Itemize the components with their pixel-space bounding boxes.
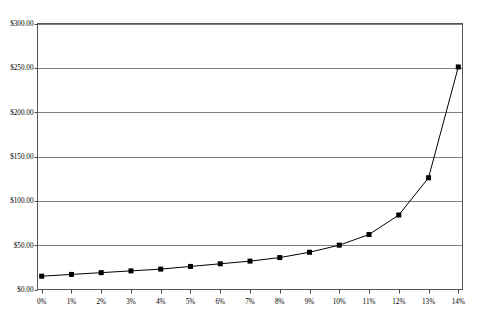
- x-axis-tick-label: 5%: [186, 298, 196, 306]
- data-point-marker: [426, 175, 431, 180]
- y-axis-tick-label: $200.00: [10, 109, 34, 117]
- data-point-marker: [188, 264, 193, 269]
- x-axis-tick-label: 8%: [275, 298, 285, 306]
- data-point-marker: [99, 270, 104, 275]
- x-axis-tick-label: 6%: [215, 298, 225, 306]
- data-point-marker: [218, 261, 223, 266]
- x-axis-tick-label: 9%: [305, 298, 315, 306]
- data-point-marker: [456, 64, 461, 69]
- line-chart: $0.00$50.00$100.00$150.00$200.00$250.00$…: [0, 0, 488, 319]
- x-axis-tick-label: 13%: [422, 298, 435, 306]
- y-axis-tick-label: $100.00: [10, 197, 34, 205]
- y-axis-tick-label: $250.00: [10, 64, 34, 72]
- x-axis-tick-label: 3%: [126, 298, 136, 306]
- x-axis-tick-label: 7%: [245, 298, 255, 306]
- x-axis-tick-label: 12%: [392, 298, 405, 306]
- x-axis-tick-label: 0%: [37, 298, 47, 306]
- chart-container: $0.00$50.00$100.00$150.00$200.00$250.00$…: [0, 0, 488, 319]
- data-point-marker: [367, 232, 372, 237]
- data-point-marker: [158, 267, 163, 272]
- x-axis-tick-label: 11%: [363, 298, 376, 306]
- x-axis-tick-label: 10%: [333, 298, 346, 306]
- data-point-marker: [396, 213, 401, 218]
- x-axis-tick-labels: 0%1%2%3%4%5%6%7%8%9%10%11%12%13%14%: [37, 298, 465, 306]
- x-axis-tick-label: 1%: [67, 298, 77, 306]
- data-point-marker: [307, 250, 312, 255]
- data-point-marker: [69, 272, 74, 277]
- data-point-marker: [277, 255, 282, 260]
- y-axis-tick-label: $0.00: [17, 286, 34, 294]
- data-point-marker: [39, 274, 44, 279]
- y-axis-tick-label: $300.00: [10, 20, 34, 28]
- y-axis-tick-label: $50.00: [14, 242, 34, 250]
- x-axis-tick-label: 14%: [452, 298, 465, 306]
- data-point-marker: [337, 243, 342, 248]
- y-axis-tick-label: $150.00: [10, 153, 34, 161]
- x-axis-tick-label: 2%: [96, 298, 106, 306]
- x-axis-tick-label: 4%: [156, 298, 166, 306]
- chart-background: [0, 0, 488, 319]
- data-point-marker: [128, 268, 133, 273]
- data-point-marker: [248, 259, 253, 264]
